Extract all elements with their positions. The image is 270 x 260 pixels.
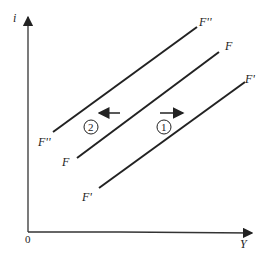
label-f-double-prime-start: F'' (37, 135, 51, 149)
curve-f-double-prime (53, 27, 197, 132)
y-axis-label: i (13, 11, 16, 25)
shift-marker-1-label: 1 (161, 121, 167, 133)
label-f-prime-start: F' (81, 190, 92, 204)
label-f-end: F (224, 39, 233, 53)
origin-label: 0 (25, 233, 31, 245)
label-f-double-prime-end: F'' (198, 15, 212, 29)
label-f-start: F (61, 155, 70, 169)
label-f-prime-end: F' (244, 72, 255, 86)
diagram: i Y 0 F'' F F' F'' F F' 2 1 (0, 0, 270, 260)
curve-f-prime (99, 82, 245, 188)
curve-f (77, 52, 219, 158)
x-axis-label: Y (240, 237, 248, 251)
shift-marker-2-label: 2 (88, 121, 94, 133)
